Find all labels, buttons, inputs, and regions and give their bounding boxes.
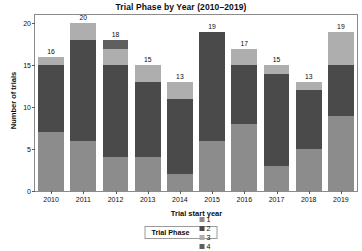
bar-segment-phase-2[interactable] xyxy=(231,65,257,124)
bar-segment-phase-1[interactable] xyxy=(231,124,257,191)
bar-group[interactable]: 18 xyxy=(103,15,129,191)
bar-segment-phase-1[interactable] xyxy=(38,132,64,191)
bar-segment-phase-1[interactable] xyxy=(135,157,161,191)
bar-group[interactable]: 15 xyxy=(264,15,290,191)
legend-swatch-icon xyxy=(199,226,204,231)
bar-segment-phase-3[interactable] xyxy=(38,57,64,65)
bar-group[interactable]: 17 xyxy=(231,15,257,191)
bar-group[interactable]: 13 xyxy=(296,15,322,191)
bar-segment-phase-3[interactable] xyxy=(264,65,290,73)
bar-segment-phase-1[interactable] xyxy=(167,174,193,191)
bar-segment-phase-3[interactable] xyxy=(70,23,96,40)
x-axis-tick-label: 2014 xyxy=(172,196,188,203)
x-axis-tick-mark xyxy=(83,191,84,194)
bar-total-label: 20 xyxy=(80,14,88,21)
chart-title: Trial Phase by Year (2010–2019) xyxy=(0,2,362,12)
y-axis-tick-label: 20 xyxy=(23,20,31,27)
bar-segment-phase-2[interactable] xyxy=(38,65,64,132)
x-axis-tick-label: 2012 xyxy=(108,196,124,203)
bar-segment-phase-1[interactable] xyxy=(328,116,354,191)
legend-label: 3 xyxy=(206,233,210,242)
bar-group[interactable]: 15 xyxy=(135,15,161,191)
legend-swatch-icon xyxy=(199,235,204,240)
legend-title: Trial Phase xyxy=(152,228,190,237)
bar-segment-phase-1[interactable] xyxy=(199,141,225,191)
y-axis-tick-label: 0 xyxy=(27,188,31,195)
x-axis-tick-label: 2017 xyxy=(269,196,285,203)
x-axis-tick-mark xyxy=(244,191,245,194)
bar-total-label: 15 xyxy=(144,56,152,63)
bar-group[interactable]: 19 xyxy=(199,15,225,191)
bar-total-label: 19 xyxy=(337,23,345,30)
x-axis-tick-mark xyxy=(341,191,342,194)
bar-segment-phase-2[interactable] xyxy=(70,40,96,141)
bar-total-label: 15 xyxy=(273,56,281,63)
x-axis-tick-label: 2013 xyxy=(140,196,156,203)
legend-swatch-icon xyxy=(199,217,204,222)
bar-group[interactable]: 20 xyxy=(70,15,96,191)
y-axis-tick-label: 10 xyxy=(23,104,31,111)
bar-segment-phase-2[interactable] xyxy=(103,65,129,157)
bar-segment-phase-1[interactable] xyxy=(103,157,129,191)
bar-segment-phase-4[interactable] xyxy=(103,40,129,48)
bar-segment-phase-1[interactable] xyxy=(296,149,322,191)
bar-segment-phase-3[interactable] xyxy=(328,32,354,66)
x-axis-tick-label: 2015 xyxy=(204,196,220,203)
y-axis-tick-label: 15 xyxy=(23,62,31,69)
x-axis-tick-mark xyxy=(212,191,213,194)
bar-total-label: 17 xyxy=(241,40,249,47)
y-axis-tick-mark xyxy=(32,23,35,24)
bar-segment-phase-2[interactable] xyxy=(199,32,225,141)
legend-item-phase-2[interactable]: 2 xyxy=(199,224,210,233)
x-axis-tick-label: 2016 xyxy=(237,196,253,203)
legend-items: 1234 xyxy=(199,215,210,251)
chart-legend: Trial Phase 1234 xyxy=(145,226,218,239)
bar-segment-phase-3[interactable] xyxy=(103,49,129,66)
x-axis-tick-label: 2018 xyxy=(301,196,317,203)
bar-segment-phase-2[interactable] xyxy=(135,82,161,157)
x-axis-tick-mark xyxy=(309,191,310,194)
bar-segment-phase-1[interactable] xyxy=(70,141,96,191)
bar-segment-phase-3[interactable] xyxy=(231,49,257,66)
x-axis-tick-mark xyxy=(51,191,52,194)
x-axis-tick-label: 2010 xyxy=(43,196,59,203)
legend-item-phase-3[interactable]: 3 xyxy=(199,233,210,242)
bar-group[interactable]: 16 xyxy=(38,15,64,191)
bar-group[interactable]: 19 xyxy=(328,15,354,191)
bar-total-label: 18 xyxy=(112,31,120,38)
x-axis-tick-mark xyxy=(180,191,181,194)
bar-segment-phase-3[interactable] xyxy=(296,82,322,90)
plot-area: 0510152020101620112020121820131520141320… xyxy=(34,14,358,192)
legend-item-phase-1[interactable]: 1 xyxy=(199,215,210,224)
bar-segment-phase-2[interactable] xyxy=(167,99,193,174)
legend-label: 1 xyxy=(206,215,210,224)
bar-segment-phase-2[interactable] xyxy=(296,90,322,149)
x-axis-label: Trial start year xyxy=(34,209,359,218)
y-axis-tick-mark xyxy=(32,65,35,66)
legend-label: 2 xyxy=(206,224,210,233)
bar-group[interactable]: 13 xyxy=(167,15,193,191)
plot-inner: 0510152020101620112020121820131520141320… xyxy=(35,15,357,191)
x-axis-tick-label: 2011 xyxy=(76,196,91,203)
bar-segment-phase-3[interactable] xyxy=(135,65,161,82)
y-axis-label: Number of trials xyxy=(9,36,18,166)
x-axis-tick-mark xyxy=(116,191,117,194)
legend-item-phase-4[interactable]: 4 xyxy=(199,242,210,251)
bar-total-label: 13 xyxy=(305,73,313,80)
x-axis-tick-label: 2019 xyxy=(333,196,349,203)
bar-segment-phase-3[interactable] xyxy=(167,82,193,99)
legend-swatch-icon xyxy=(199,244,204,249)
x-axis-tick-mark xyxy=(148,191,149,194)
legend-label: 4 xyxy=(206,242,210,251)
y-axis-tick-mark xyxy=(32,191,35,192)
bar-segment-phase-1[interactable] xyxy=(264,166,290,191)
bar-total-label: 16 xyxy=(47,48,55,55)
bar-total-label: 19 xyxy=(208,23,216,30)
x-axis-tick-mark xyxy=(277,191,278,194)
y-axis-tick-mark xyxy=(32,107,35,108)
y-axis-tick-label: 5 xyxy=(27,146,31,153)
bar-segment-phase-2[interactable] xyxy=(328,65,354,115)
bar-total-label: 13 xyxy=(176,73,184,80)
bar-segment-phase-2[interactable] xyxy=(264,74,290,166)
